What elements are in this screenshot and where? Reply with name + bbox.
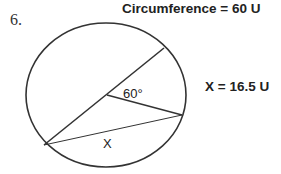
angle-label: 60°: [123, 86, 143, 101]
radius-line: [107, 95, 182, 115]
chord-label: X: [103, 136, 112, 151]
circle-diagram: 60° X: [0, 0, 281, 174]
chord-x-line: [44, 115, 182, 145]
diameter-line: [44, 48, 164, 145]
